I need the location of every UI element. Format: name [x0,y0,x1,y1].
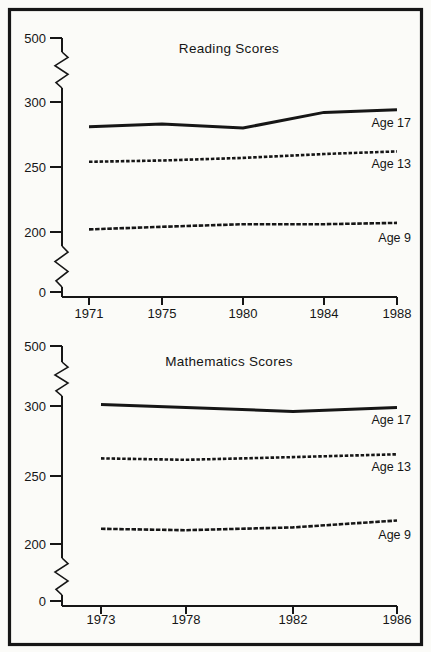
age-9-line [89,223,397,230]
y-tick-label: 300 [24,399,46,414]
math-age9-label: Age 9 [341,528,411,542]
y-tick-label: 500 [24,339,46,354]
x-tick-label: 1975 [148,306,177,321]
math-age13-label: Age 13 [341,460,411,474]
y-tick-label: 500 [24,31,46,46]
x-tick-label: 1984 [310,306,339,321]
math-age17-label: Age 17 [341,413,411,427]
reading-age17-label: Age 17 [341,116,411,130]
x-tick-label: 1982 [279,612,308,627]
y-tick-label: 200 [24,537,46,552]
figure-border [10,10,422,645]
axis-break-zigzag [55,246,68,287]
y-tick-label: 0 [39,594,46,609]
axis-break-zigzag [55,362,68,396]
x-tick-label: 1980 [229,306,258,321]
mathematics-chart-title: Mathematics Scores [119,354,339,369]
y-tick-label: 0 [39,285,46,300]
y-tick-label: 250 [24,160,46,175]
x-tick-label: 1973 [87,612,116,627]
reading-age13-label: Age 13 [341,157,411,171]
y-tick-label: 300 [24,95,46,110]
x-tick-label: 1986 [383,612,412,627]
axis-break-zigzag [55,52,68,88]
x-tick-label: 1971 [75,306,104,321]
scanned-figure-page: 5003002502000197119751980198419885003002… [0,0,431,652]
x-tick-label: 1978 [172,612,201,627]
trend-charts-canvas: 5003002502000197119751980198419885003002… [0,0,431,652]
x-tick-label: 1988 [383,306,412,321]
reading-chart-title: Reading Scores [119,41,339,56]
y-tick-label: 250 [24,469,46,484]
age-13-line [101,454,397,460]
reading-age9-label: Age 9 [341,231,411,245]
axis-break-zigzag [55,558,68,595]
y-tick-label: 200 [24,225,46,240]
age-17-line [101,405,397,412]
